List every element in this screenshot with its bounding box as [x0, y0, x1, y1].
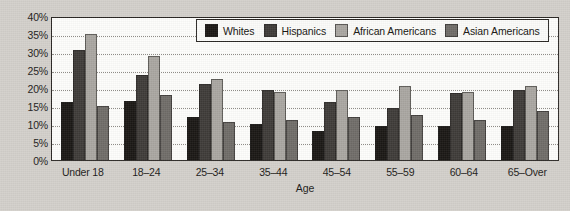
bar-chart: 40%35%30%25%20%15%10%5%0% WhitesHispanic… [0, 0, 570, 211]
bar [148, 56, 160, 160]
bar [199, 84, 211, 160]
bar [250, 124, 262, 160]
bar [223, 122, 235, 160]
bar [160, 95, 172, 160]
x-axis-tick-label: 45–54 [305, 166, 369, 180]
x-axis-tick-label: 18–24 [115, 166, 179, 180]
x-axis-tick-label: Under 18 [51, 166, 115, 180]
bar [399, 86, 411, 160]
bar [537, 111, 549, 160]
x-axis-tick-label: 25–34 [178, 166, 242, 180]
y-axis-tick-label: 30% [2, 48, 48, 58]
legend-swatch-icon [205, 24, 218, 37]
y-axis-tick-label: 35% [2, 30, 48, 40]
legend-swatch-icon [264, 24, 277, 37]
bar [375, 126, 387, 160]
bar [462, 92, 474, 160]
legend-label: Hispanics [282, 25, 327, 37]
bar [211, 79, 223, 160]
y-axis-tick-label: 25% [2, 66, 48, 76]
chart-legend: WhitesHispanicsAfrican AmericansAsian Am… [196, 19, 549, 42]
bar [336, 90, 348, 160]
bar [387, 108, 399, 160]
y-axis-tick-label: 10% [2, 120, 48, 130]
bar [286, 120, 298, 160]
bar [312, 131, 324, 160]
bar [136, 75, 148, 160]
y-axis-tick-label: 5% [2, 138, 48, 148]
x-axis-tick-label: 55–59 [369, 166, 433, 180]
y-axis: 40%35%30%25%20%15%10%5%0% [0, 0, 48, 211]
legend-swatch-icon [335, 24, 348, 37]
x-axis-tick-label: 65–Over [496, 166, 560, 180]
bar [124, 101, 136, 160]
bar [501, 126, 513, 160]
y-axis-tick-label: 0% [2, 156, 48, 166]
legend-item: African Americans [335, 24, 436, 37]
bar [262, 90, 274, 160]
legend-item: Hispanics [264, 24, 327, 37]
legend-label: African Americans [353, 25, 436, 37]
bar [324, 102, 336, 160]
x-axis-tick-label: 60–64 [432, 166, 496, 180]
bar [525, 86, 537, 160]
bar-group [117, 18, 180, 160]
y-axis-tick-label: 40% [2, 12, 48, 22]
legend-label: Whites [223, 25, 255, 37]
legend-label: Asian Americans [463, 25, 540, 37]
bar [474, 120, 486, 160]
bar [61, 102, 73, 160]
bar [411, 115, 423, 160]
bar [513, 90, 525, 160]
bar-group [54, 18, 117, 160]
bar [85, 34, 97, 160]
x-axis-tick-label: 35–44 [242, 166, 306, 180]
bar [450, 93, 462, 160]
bar [274, 92, 286, 160]
x-axis: Under 1818–2425–3435–4445–5455–5960–6465… [51, 166, 559, 180]
legend-item: Asian Americans [445, 24, 540, 37]
x-axis-title: Age [51, 182, 559, 194]
bar [348, 117, 360, 160]
y-axis-tick-label: 15% [2, 102, 48, 112]
bar [187, 117, 199, 160]
legend-item: Whites [205, 24, 255, 37]
bar [73, 50, 85, 160]
legend-swatch-icon [445, 24, 458, 37]
bar [438, 126, 450, 160]
bar [97, 106, 109, 160]
y-axis-tick-label: 20% [2, 84, 48, 94]
